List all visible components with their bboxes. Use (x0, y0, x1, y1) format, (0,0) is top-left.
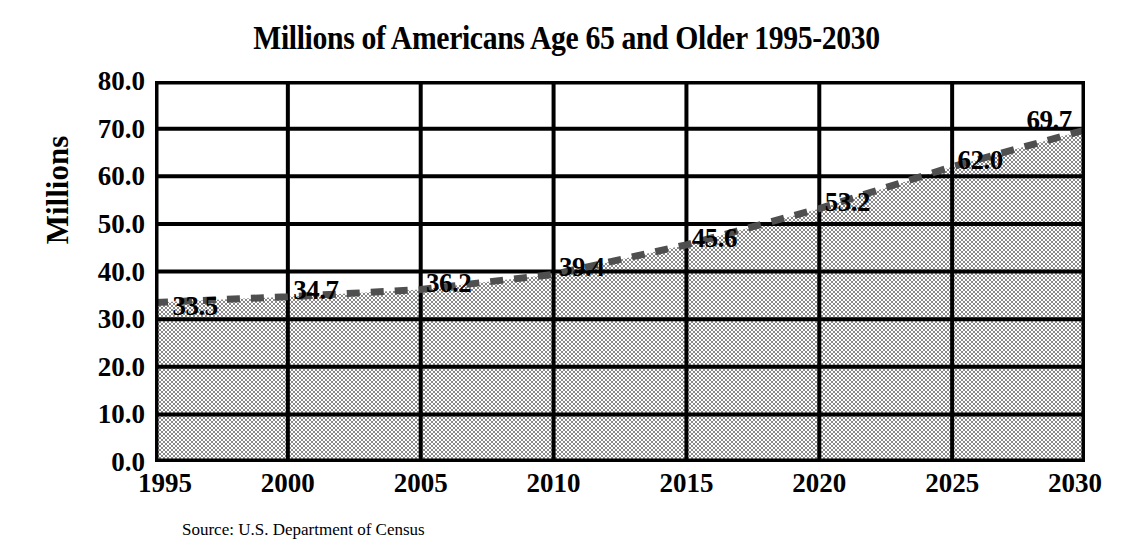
source-note: Source: U.S. Department of Census (182, 521, 425, 538)
y-tick-label: 50.0 (98, 210, 145, 237)
data-point-label: 33.5 (172, 293, 217, 320)
y-tick-label: 60.0 (98, 163, 145, 190)
x-tick-label: 2030 (1048, 470, 1102, 497)
data-point-label: 69.7 (1026, 107, 1071, 134)
chart-title: Millions of Americans Age 65 and Older 1… (57, 22, 1077, 55)
data-point-label: 62.0 (958, 146, 1003, 173)
y-tick-label: 20.0 (98, 353, 145, 380)
data-point-label: 39.4 (559, 254, 604, 281)
y-tick-label: 30.0 (98, 306, 145, 333)
data-point-label: 53.2 (825, 188, 870, 215)
data-point-label: 34.7 (293, 276, 338, 303)
chart-figure: Millions of Americans Age 65 and Older 1… (0, 0, 1133, 545)
data-point-label: 45.6 (692, 224, 737, 251)
y-tick-label: 10.0 (98, 401, 145, 428)
x-tick-label: 2000 (261, 470, 315, 497)
plot-svg (155, 81, 1085, 462)
y-axis-title: Millions (40, 90, 76, 290)
x-tick-label: 2025 (925, 470, 979, 497)
y-tick-label: 80.0 (98, 68, 145, 95)
y-tick-label: 40.0 (98, 258, 145, 285)
x-tick-label: 2015 (659, 470, 713, 497)
y-tick-label: 70.0 (98, 115, 145, 142)
data-point-label: 36.2 (426, 269, 471, 296)
plot-area: 33.534.736.239.445.653.262.069.7 (155, 81, 1085, 462)
x-tick-label: 2005 (394, 470, 448, 497)
x-tick-label: 2020 (792, 470, 846, 497)
x-tick-label: 2010 (527, 470, 581, 497)
x-tick-label: 1995 (138, 470, 192, 497)
